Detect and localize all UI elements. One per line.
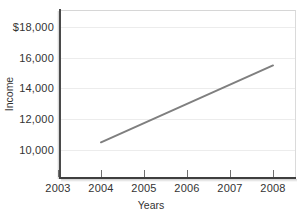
income-line-chart: $18,000 16,000 14,000 12,000 10,000 2003… — [0, 0, 302, 218]
income-trend-line — [101, 65, 273, 142]
series-layer — [0, 0, 302, 218]
